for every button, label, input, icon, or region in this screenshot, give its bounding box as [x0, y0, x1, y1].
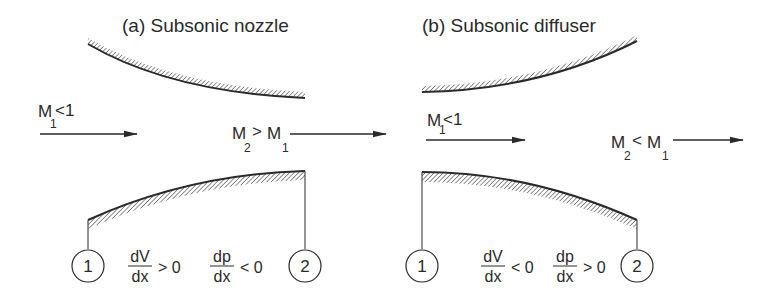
svg-text:dp: dp	[556, 248, 574, 265]
station-2-marker: 2	[621, 250, 653, 282]
bottom-wall	[422, 172, 637, 249]
pressure-gradient-relation: dp dx < 0	[210, 248, 263, 285]
svg-text:1: 1	[417, 257, 426, 276]
svg-text:2: 2	[632, 257, 641, 276]
station-1-marker: 1	[72, 250, 104, 282]
pressure-gradient-relation: dp dx > 0	[553, 248, 606, 285]
svg-text:> 0: > 0	[158, 259, 181, 276]
svg-text:dp: dp	[213, 248, 231, 265]
panel-subsonic-nozzle: (a) Subsonic nozzle M 1 <1 M 2 > M 1	[38, 15, 386, 285]
svg-text:dx: dx	[132, 268, 149, 285]
svg-text:1: 1	[282, 141, 289, 155]
svg-text:dV: dV	[130, 248, 150, 265]
svg-text:M: M	[267, 124, 281, 143]
svg-text:2: 2	[300, 257, 309, 276]
inlet-mach-label: M 1 <1	[427, 110, 462, 137]
svg-text:<: <	[632, 131, 642, 150]
outlet-mach-label: M 2 > M 1	[232, 122, 289, 155]
top-wall	[422, 35, 637, 97]
svg-text:dx: dx	[214, 268, 231, 285]
panel-subsonic-diffuser: (b) Subsonic diffuser M 1 <1 M 2 < M 1	[406, 15, 743, 285]
svg-text:dx: dx	[485, 268, 502, 285]
velocity-gradient-relation: dV dx < 0	[481, 248, 534, 285]
station-2-marker: 2	[289, 250, 321, 282]
svg-text:2: 2	[244, 141, 251, 155]
svg-text:1: 1	[662, 149, 669, 163]
svg-text:dV: dV	[483, 248, 503, 265]
nozzle-diffuser-diagram: (a) Subsonic nozzle M 1 <1 M 2 > M 1	[0, 0, 779, 306]
bottom-wall	[88, 171, 305, 249]
panel-title: (b) Subsonic diffuser	[422, 15, 597, 36]
svg-text:< 0: < 0	[240, 259, 263, 276]
svg-text:< 0: < 0	[511, 259, 534, 276]
top-wall	[88, 38, 305, 98]
svg-text:> 0: > 0	[583, 259, 606, 276]
station-1-marker: 1	[406, 250, 438, 282]
velocity-gradient-relation: dV dx > 0	[128, 248, 181, 285]
svg-text:<1: <1	[55, 101, 74, 120]
svg-text:dx: dx	[557, 268, 574, 285]
svg-text:<1: <1	[443, 110, 462, 129]
svg-text:>: >	[252, 122, 262, 141]
svg-text:2: 2	[624, 149, 631, 163]
svg-text:1: 1	[83, 257, 92, 276]
svg-text:M: M	[647, 133, 661, 152]
outlet-mach-label: M 2 < M 1	[611, 131, 669, 163]
panel-title: (a) Subsonic nozzle	[122, 15, 289, 36]
inlet-mach-label: M 1 <1	[38, 101, 74, 131]
